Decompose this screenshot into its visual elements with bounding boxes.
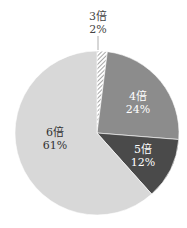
slice-label-5x-name: 5倍 bbox=[134, 142, 152, 156]
slice-label-6x-percent: 61% bbox=[43, 139, 67, 152]
slice-label-4x-name: 4倍 bbox=[129, 89, 147, 103]
slice-label-6x-name: 6倍 bbox=[46, 125, 64, 139]
slice-label-3x-name: 3倍 bbox=[89, 9, 107, 23]
pie-slices bbox=[15, 51, 179, 215]
pie-chart: 3倍 2% 4倍 24% 5倍 12% 6倍 61% bbox=[0, 0, 187, 228]
slice-label-5x-percent: 12% bbox=[131, 156, 155, 169]
slice-label-3x-percent: 2% bbox=[89, 23, 106, 36]
slice-label-4x-percent: 24% bbox=[126, 103, 150, 116]
